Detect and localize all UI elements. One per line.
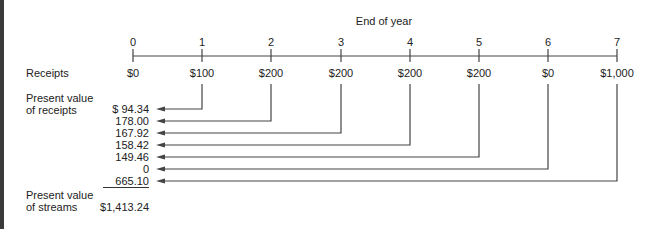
year-label: 6 bbox=[545, 36, 551, 48]
year-label: 1 bbox=[199, 36, 205, 48]
pv-value: 0 bbox=[143, 163, 149, 175]
year-label: 2 bbox=[268, 36, 274, 48]
receipt-value: $200 bbox=[259, 67, 283, 79]
receipt-value: $1,000 bbox=[600, 67, 634, 79]
pv-value: 149.46 bbox=[115, 151, 149, 163]
pv-value-last: 665.10 bbox=[103, 175, 149, 188]
year-label: 5 bbox=[476, 36, 482, 48]
receipt-value: $200 bbox=[329, 67, 353, 79]
axis-title: End of year bbox=[356, 15, 412, 27]
pv-value: 178.00 bbox=[115, 115, 149, 127]
receipt-value: $100 bbox=[190, 67, 214, 79]
receipt-value: $200 bbox=[467, 67, 491, 79]
pv-value: 158.42 bbox=[115, 139, 149, 151]
receipts-label: Receipts bbox=[26, 67, 69, 79]
year-label: 7 bbox=[614, 36, 620, 48]
pv-value: 167.92 bbox=[115, 127, 149, 139]
pv-streams-total: $1,413.24 bbox=[100, 201, 149, 213]
pv-receipts-label-line2: of receipts bbox=[26, 104, 77, 116]
year-label: 3 bbox=[338, 36, 344, 48]
receipt-value: $0 bbox=[127, 67, 139, 79]
pv-streams-label-line1: Present value bbox=[26, 189, 93, 201]
receipt-value: $0 bbox=[542, 67, 554, 79]
pv-receipts-label-line1: Present value bbox=[26, 92, 93, 104]
year-label: 0 bbox=[130, 36, 136, 48]
receipt-value: $200 bbox=[398, 67, 422, 79]
pv-streams-label-line2: of streams bbox=[26, 201, 77, 213]
pv-value: $ 94.34 bbox=[112, 103, 149, 115]
timeline-diagram bbox=[0, 0, 652, 229]
year-label: 4 bbox=[407, 36, 413, 48]
